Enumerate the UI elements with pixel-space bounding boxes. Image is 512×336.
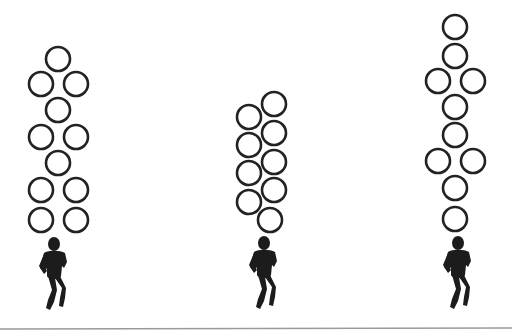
ring-marker	[426, 69, 450, 93]
ring-marker	[64, 72, 88, 96]
ring-marker	[443, 207, 467, 231]
ring-marker	[46, 98, 70, 122]
ring-marker	[237, 133, 261, 157]
ring-marker	[46, 151, 70, 175]
formation-left	[29, 47, 88, 310]
ring-marker	[237, 161, 261, 185]
ring-marker	[29, 72, 53, 96]
ring-marker	[46, 47, 70, 71]
ring-marker	[262, 178, 286, 202]
ring-marker	[64, 125, 88, 149]
hopscotch-diagram	[0, 0, 512, 336]
runner-icon	[39, 237, 67, 310]
ring-marker	[64, 178, 88, 202]
ring-marker	[262, 92, 286, 116]
ground-line	[0, 328, 512, 329]
ring-marker	[443, 176, 467, 200]
ring-marker	[258, 208, 282, 232]
formation-middle	[237, 92, 286, 309]
ring-marker	[29, 125, 53, 149]
ring-marker	[426, 149, 450, 173]
ring-marker	[443, 123, 467, 147]
ring-marker	[443, 44, 467, 68]
ring-marker	[262, 150, 286, 174]
ring-marker	[29, 178, 53, 202]
ring-marker	[29, 208, 53, 232]
ring-marker	[237, 190, 261, 214]
runner-icon	[443, 236, 471, 309]
ring-marker	[262, 121, 286, 145]
ring-marker	[237, 105, 261, 129]
ring-marker	[64, 208, 88, 232]
ring-marker	[461, 149, 485, 173]
formation-right	[426, 15, 485, 309]
ring-marker	[443, 15, 467, 39]
runner-icon	[249, 236, 277, 309]
ring-marker	[443, 95, 467, 119]
ring-marker	[461, 69, 485, 93]
